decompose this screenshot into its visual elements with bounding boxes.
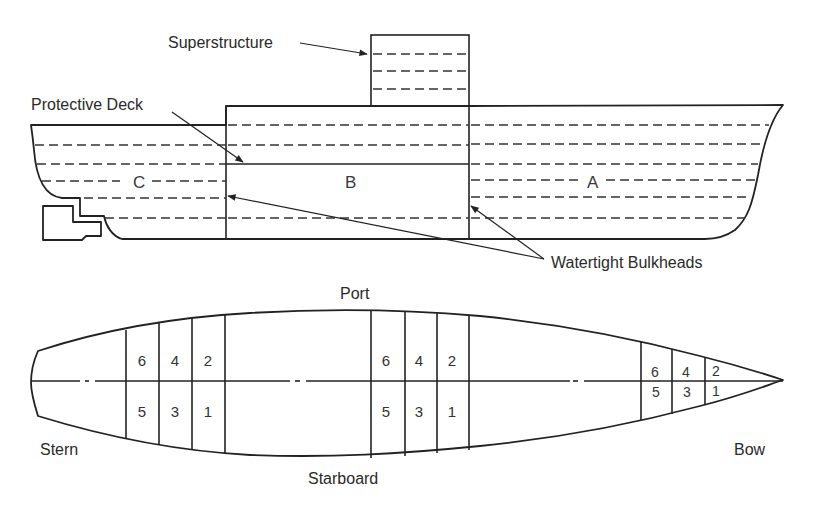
compartment-number: 3 bbox=[415, 403, 423, 420]
compartment-number: 2 bbox=[712, 363, 720, 379]
compartment-number: 1 bbox=[204, 403, 212, 420]
bow-label: Bow bbox=[734, 441, 766, 458]
superstructure-leader bbox=[300, 43, 367, 54]
protective-deck-leader bbox=[172, 112, 243, 162]
compartment-number: 4 bbox=[171, 352, 179, 369]
compartment-number: 3 bbox=[171, 403, 179, 420]
compartment-number: 3 bbox=[683, 384, 691, 400]
compartment-number: 5 bbox=[652, 384, 660, 400]
rudder bbox=[43, 206, 101, 240]
compartment-number: 1 bbox=[448, 403, 456, 420]
bulkhead-leader-forward bbox=[471, 206, 544, 259]
compartment-number: 6 bbox=[382, 352, 390, 369]
compartment-number: 6 bbox=[651, 364, 659, 380]
compartment-number: 6 bbox=[138, 352, 146, 369]
plan-view: 6 4 2 5 3 1 6 4 2 5 3 1 6 4 2 5 3 1 Port… bbox=[31, 285, 783, 487]
compartment-number: 5 bbox=[138, 403, 146, 420]
superstructure-label: Superstructure bbox=[168, 34, 273, 51]
starboard-label: Starboard bbox=[308, 470, 378, 487]
compartment-number: 4 bbox=[415, 352, 423, 369]
compartment-number: 1 bbox=[712, 383, 720, 399]
section-label-a: A bbox=[587, 173, 599, 192]
plan-hull-outline bbox=[31, 310, 783, 456]
port-label: Port bbox=[340, 285, 370, 302]
watertight-bulkheads-label: Watertight Bulkheads bbox=[551, 254, 702, 271]
compartment-number: 4 bbox=[682, 364, 690, 380]
ship-compartment-diagram: C B A Superstructure Protective Deck Wat… bbox=[0, 0, 814, 511]
section-label-c: C bbox=[133, 173, 145, 192]
compartment-number: 5 bbox=[382, 403, 390, 420]
side-elevation: C B A Superstructure Protective Deck Wat… bbox=[31, 34, 783, 271]
stern-label: Stern bbox=[40, 441, 78, 458]
protective-deck-label: Protective Deck bbox=[31, 96, 144, 113]
bulkhead-leader-aft bbox=[228, 196, 544, 259]
compartment-number: 2 bbox=[448, 352, 456, 369]
compartment-number: 2 bbox=[204, 352, 212, 369]
section-label-b: B bbox=[345, 173, 356, 192]
